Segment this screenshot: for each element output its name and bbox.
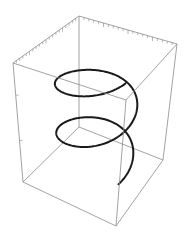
box-edge xyxy=(116,100,126,226)
box-edge xyxy=(126,44,177,100)
box-edge xyxy=(13,16,79,63)
box-edge xyxy=(13,63,23,182)
box-edge xyxy=(79,127,163,160)
box-edge xyxy=(116,160,163,226)
box-edge xyxy=(163,44,177,160)
helix-curve-group xyxy=(55,70,137,184)
box-edge xyxy=(23,127,79,182)
helix-curve xyxy=(55,70,137,184)
helix-plot xyxy=(0,0,188,241)
box-edge xyxy=(79,16,177,44)
box-edge xyxy=(23,182,116,226)
bounding-box-front-edges xyxy=(13,16,177,226)
